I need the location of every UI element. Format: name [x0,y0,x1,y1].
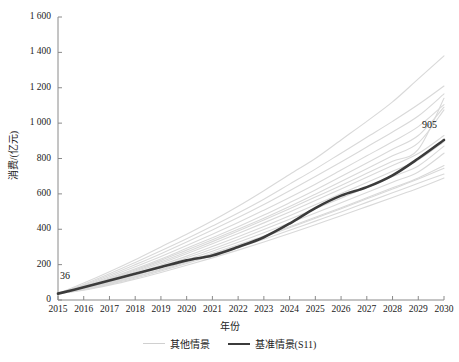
y-tick-label: 0 [0,295,51,305]
point-value-label: 905 [422,120,437,130]
y-tick-label: 1 600 [0,12,51,22]
other-scenario-path [58,168,444,293]
point-value-label: 36 [60,271,70,281]
consumption-forecast-chart: 02004006008001 0001 2001 4001 600 201520… [0,0,459,362]
legend-label-other: 其他情景 [170,336,210,351]
x-axis-title: 年份 [0,318,459,333]
other-scenario-lines [58,56,444,294]
other-scenario-path [58,98,444,293]
y-axis-title: 消费/(亿元) [5,116,20,196]
chart-legend: 其他情景 基准情景(S11) [0,336,459,351]
legend-label-baseline: 基准情景(S11) [255,336,317,351]
other-scenario-path [58,94,444,294]
y-tick-label: 1 400 [0,47,51,57]
y-tick-label: 200 [0,260,51,270]
x-tick-label: 2030 [428,305,459,315]
other-scenario-path [58,110,444,294]
y-tick-label: 400 [0,224,51,234]
legend-item-baseline[interactable]: 基准情景(S11) [228,336,317,351]
legend-swatch-baseline-icon [228,343,250,345]
legend-item-other[interactable]: 其他情景 [143,336,210,351]
legend-swatch-other-icon [143,343,165,344]
other-scenario-path [58,56,444,294]
y-tick-label: 1 200 [0,83,51,93]
